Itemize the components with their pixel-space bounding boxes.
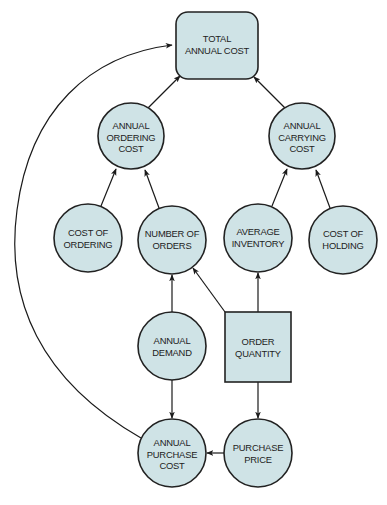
node-cost-of-ordering: COST OFORDERING [54,204,122,272]
svg-text:AVERAGEINVENTORY: AVERAGEINVENTORY [232,226,286,249]
node-total-annual-cost: TOTALANNUAL COST [176,12,258,79]
edge-order-qty-to-num-orders [193,268,225,312]
node-cost-of-holding: COST OFHOLDING [309,206,377,274]
node-annual-carrying-cost: ANNUALCARRYINGCOST [269,103,335,169]
node-purchase-price: PURCHASEPRICE [224,419,292,487]
svg-text:ANNUALDEMAND: ANNUALDEMAND [152,335,192,358]
node-average-inventory: AVERAGEINVENTORY [224,204,292,272]
svg-text:NUMBER OFORDERS: NUMBER OFORDERS [145,228,200,251]
edge-cost-ordering-to-ordering [101,169,116,206]
node-annual-ordering-cost: ANNUALORDERINGCOST [98,103,164,169]
edge-carrying-to-total [254,77,285,108]
node-number-of-orders: NUMBER OFORDERS [138,206,206,274]
svg-text:COST OFORDERING: COST OFORDERING [64,227,113,250]
svg-text:COST OFHOLDING: COST OFHOLDING [322,228,363,251]
node-order-quantity: ORDERQUANTITY [225,312,291,382]
inventory-cost-diagram: TOTALANNUAL COST ANNUALORDERINGCOST ANNU… [0,0,387,505]
edge-avg-inventory-to-carrying [272,169,287,206]
node-annual-purchase-cost: ANNUALPURCHASECOST [138,419,206,487]
edge-holding-to-carrying [316,170,330,208]
edge-ordering-to-total [148,76,180,108]
node-annual-demand: ANNUALDEMAND [138,312,206,380]
edge-num-orders-to-ordering [145,170,159,208]
